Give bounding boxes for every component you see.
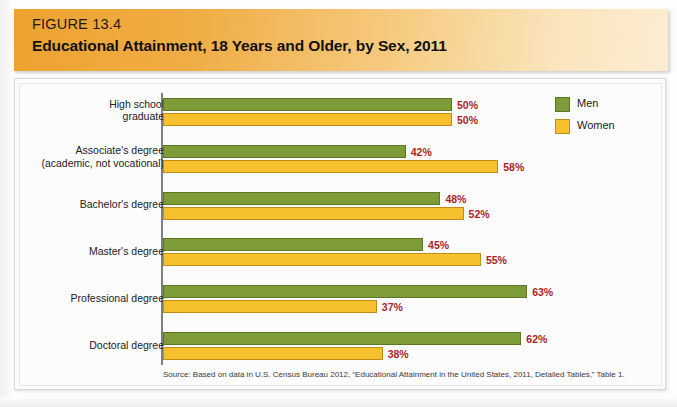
bar-men (163, 145, 406, 158)
legend-label: Women (577, 119, 615, 131)
legend-label: Men (577, 97, 598, 109)
category-label-line: High school (0, 98, 164, 111)
figure-number: FIGURE 13.4 (32, 16, 121, 32)
bar-women (163, 113, 452, 126)
bar-women (163, 253, 481, 266)
category-group: Master's degree45%55% (15, 238, 667, 266)
category-group: Bachelor's degree48%52% (15, 192, 667, 220)
category-label: Master's degree (0, 245, 164, 258)
category-group: Professional degree63%37% (15, 285, 667, 313)
value-axis-line (161, 93, 163, 365)
category-label-line: (academic, not vocational) (0, 157, 164, 170)
bar-value-label: 50% (457, 99, 478, 111)
category-label: High schoolgraduate (0, 98, 164, 123)
chart-panel: High schoolgraduate50%50%Associate's deg… (14, 78, 666, 390)
bar-men (163, 332, 521, 345)
bar-value-label: 37% (382, 301, 403, 313)
category-group: Associate's degree(academic, not vocatio… (15, 145, 667, 173)
bar-women (163, 347, 383, 360)
category-label-line: Associate's degree (0, 144, 164, 157)
legend-swatch-women (555, 119, 570, 134)
bar-women (163, 207, 464, 220)
category-label-line: Doctoral degree (0, 339, 164, 352)
bar-value-label: 50% (457, 114, 478, 126)
legend-item-women[interactable]: Women (555, 117, 655, 139)
bar-women (163, 300, 377, 313)
bar-value-label: 55% (486, 254, 507, 266)
bar-value-label: 42% (411, 146, 432, 158)
page-edge-shading-bottom (0, 397, 677, 407)
chart-legend: MenWomen (555, 95, 655, 139)
bar-men (163, 285, 527, 298)
bar-value-label: 52% (469, 208, 490, 220)
category-label-line: graduate (0, 110, 164, 123)
bar-men (163, 98, 452, 111)
bar-value-label: 62% (526, 333, 547, 345)
bar-men (163, 238, 423, 251)
legend-swatch-men (555, 97, 570, 112)
category-group: Doctoral degree62%38% (15, 332, 667, 360)
bar-value-label: 45% (428, 239, 449, 251)
category-label: Professional degree (0, 292, 164, 305)
category-label-line: Bachelor's degree (0, 198, 164, 211)
bar-women (163, 160, 498, 173)
legend-item-men[interactable]: Men (555, 95, 655, 117)
category-label-line: Master's degree (0, 245, 164, 258)
category-label: Bachelor's degree (0, 198, 164, 211)
bar-value-label: 48% (445, 193, 466, 205)
bar-value-label: 38% (388, 348, 409, 360)
figure-container: FIGURE 13.4 Educational Attainment, 18 Y… (0, 0, 677, 407)
bar-men (163, 192, 440, 205)
figure-title: Educational Attainment, 18 Years and Old… (32, 37, 447, 55)
category-label: Doctoral degree (0, 339, 164, 352)
source-note: Source: Based on data in U.S. Census Bur… (163, 370, 625, 379)
category-label-line: Professional degree (0, 292, 164, 305)
category-label: Associate's degree(academic, not vocatio… (0, 144, 164, 169)
bar-value-label: 63% (532, 286, 553, 298)
figure-header-banner: FIGURE 13.4 Educational Attainment, 18 Y… (14, 9, 668, 71)
bar-value-label: 58% (503, 161, 524, 173)
